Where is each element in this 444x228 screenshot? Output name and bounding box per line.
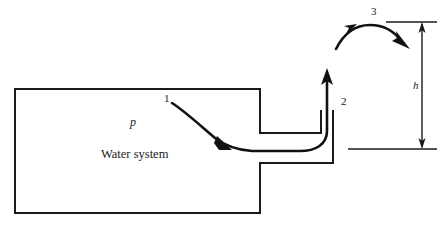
label-station-1: 1 bbox=[164, 93, 170, 104]
label-height-h: h bbox=[413, 80, 419, 91]
free-jet-arc bbox=[336, 25, 401, 49]
streamline-path bbox=[172, 74, 327, 151]
height-dimension-line bbox=[418, 22, 425, 149]
jet-arc-path bbox=[336, 25, 401, 49]
figure-container: 1 2 3 p Water system h bbox=[0, 0, 444, 228]
jet-mid-arrowhead-icon bbox=[344, 24, 357, 36]
label-pressure-p: p bbox=[130, 116, 136, 128]
streamline-arrowhead-icon bbox=[214, 136, 232, 150]
label-station-3: 3 bbox=[371, 6, 377, 17]
label-station-2: 2 bbox=[341, 96, 347, 107]
flow-streamline bbox=[172, 74, 327, 151]
schematic-drawing bbox=[0, 0, 444, 228]
label-water-system: Water system bbox=[101, 148, 168, 161]
